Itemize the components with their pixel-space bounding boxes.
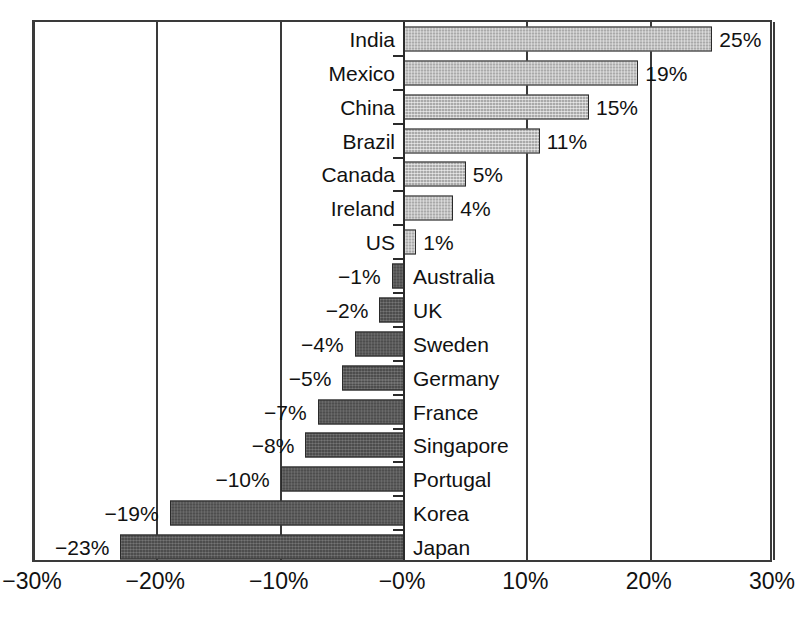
value-label: −2%	[326, 298, 369, 321]
category-label: Korea	[404, 502, 413, 525]
bar-row: Mexico19%	[34, 56, 770, 90]
bar-row: China15%	[34, 90, 770, 124]
value-label: 19%	[645, 61, 687, 84]
bar[interactable]	[404, 26, 712, 51]
bar[interactable]	[120, 535, 404, 560]
bar-row: US1%	[34, 225, 770, 259]
bar-row: Canada5%	[34, 158, 770, 192]
value-label: −1%	[338, 265, 381, 288]
bar-row: Brazil11%	[34, 124, 770, 158]
bar[interactable]	[355, 331, 404, 356]
bar[interactable]	[342, 365, 404, 390]
value-label: −8%	[252, 434, 295, 457]
category-label: Canada	[34, 163, 404, 186]
bar-row: India25%	[34, 22, 770, 56]
bar-row: Sweden−4%	[34, 327, 770, 361]
gridline-minus0	[403, 22, 405, 560]
plot-area: India25%Mexico19%China15%Brazil11%Canada…	[32, 20, 772, 562]
bar-row: France−7%	[34, 395, 770, 429]
value-label: 4%	[460, 197, 490, 220]
category-label: India	[34, 27, 404, 50]
category-label: Mexico	[34, 61, 404, 84]
category-label: Singapore	[404, 434, 413, 457]
x-axis-tick-labels: −30%−20%−10%−0%10%20%30%	[0, 566, 805, 606]
value-label: 11%	[547, 129, 587, 152]
bar-row: Portugal−10%	[34, 462, 770, 496]
category-label: US	[34, 231, 404, 254]
bar[interactable]	[305, 433, 404, 458]
x-tick-label: 10%	[502, 566, 548, 596]
bar[interactable]	[404, 230, 416, 255]
x-tick-label: −30%	[2, 566, 61, 596]
category-label: China	[34, 95, 404, 118]
bar-row: Korea−19%	[34, 496, 770, 530]
bar-row: UK−2%	[34, 293, 770, 327]
value-label: −23%	[55, 536, 109, 559]
bar[interactable]	[281, 467, 404, 492]
value-label: 25%	[719, 27, 761, 50]
bar[interactable]	[404, 60, 638, 85]
x-tick-label: −10%	[249, 566, 308, 596]
category-label: Sweden	[404, 332, 413, 355]
value-label: 1%	[423, 231, 453, 254]
category-label: Brazil	[34, 129, 404, 152]
category-label: Portugal	[404, 468, 413, 491]
bar-row: Singapore−8%	[34, 429, 770, 463]
bar-row: Ireland4%	[34, 191, 770, 225]
bar[interactable]	[318, 399, 404, 424]
category-label: Australia	[404, 265, 413, 288]
value-label: −5%	[289, 366, 332, 389]
x-tick-label: −20%	[126, 566, 185, 596]
category-label: Japan	[404, 536, 413, 559]
bar-row: Japan−23%	[34, 530, 770, 564]
x-tick-label: −0%	[379, 566, 426, 596]
bar[interactable]	[170, 501, 404, 526]
bar[interactable]	[379, 297, 404, 322]
bar[interactable]	[404, 196, 453, 221]
value-label: −10%	[215, 468, 269, 491]
value-label: 15%	[596, 95, 638, 118]
value-label: −19%	[104, 502, 158, 525]
bar[interactable]	[404, 162, 466, 187]
value-label: −7%	[264, 400, 307, 423]
gridline-30	[773, 22, 775, 560]
bar-chart: India25%Mexico19%China15%Brazil11%Canada…	[0, 0, 805, 620]
bar-rows: India25%Mexico19%China15%Brazil11%Canada…	[34, 22, 770, 560]
category-label: Ireland	[34, 197, 404, 220]
category-label: France	[404, 400, 413, 423]
bar-row: Australia−1%	[34, 259, 770, 293]
value-label: 5%	[473, 163, 503, 186]
bar[interactable]	[404, 128, 540, 153]
bar-row: Germany−5%	[34, 361, 770, 395]
x-tick-label: 20%	[626, 566, 672, 596]
category-label: UK	[404, 298, 413, 321]
category-label: Germany	[404, 366, 413, 389]
value-label: −4%	[301, 332, 344, 355]
x-tick-label: 30%	[749, 566, 795, 596]
bar[interactable]	[404, 94, 589, 119]
